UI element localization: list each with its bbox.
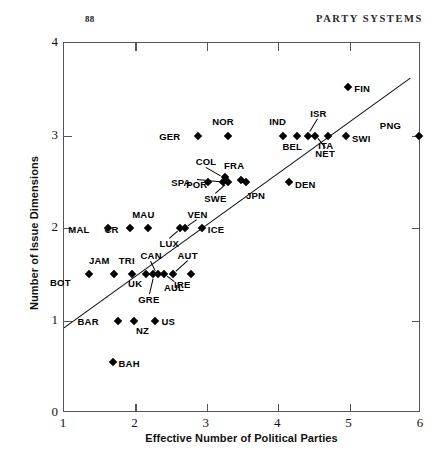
y-axis-tick-label: 3: [44, 127, 58, 143]
data-point-label: POR: [186, 179, 207, 190]
x-axis-tick: [135, 404, 136, 412]
data-point-label: ITA: [318, 140, 333, 151]
x-axis-title: Effective Number of Political Parties: [63, 432, 420, 444]
data-point-label: JAM: [89, 255, 110, 266]
data-point-label: GER: [159, 131, 180, 142]
data-point-label: BOT: [50, 277, 71, 288]
x-axis-tick: [278, 43, 279, 51]
data-point-label: UK: [128, 278, 142, 289]
x-axis-tick-label: 5: [345, 415, 352, 431]
x-axis-tick: [207, 43, 208, 51]
data-point-label: FRA: [224, 160, 244, 171]
y-axis-tick-label: 4: [44, 34, 58, 50]
data-point-label: SWE: [204, 193, 226, 204]
y-axis-tick-label: 1: [44, 312, 58, 328]
y-axis-tick-label: 0: [44, 404, 58, 420]
page-folio: 88: [85, 14, 94, 24]
data-point-label: BEL: [282, 141, 302, 152]
data-point-label: TRI: [119, 255, 135, 266]
x-axis-tick-label: 3: [203, 415, 210, 431]
x-axis-tick: [135, 43, 136, 51]
x-axis-tick-label: 6: [417, 415, 424, 431]
y-axis-tick: [412, 321, 420, 322]
data-point-label: US: [161, 316, 175, 327]
data-point-label: DEN: [295, 179, 316, 190]
y-axis-tick: [64, 321, 72, 322]
data-point-label: AUT: [178, 250, 198, 261]
figure-page: 88 PARTY SYSTEMS BOTJAMTRIUKGRECANAULAUT…: [0, 0, 437, 465]
x-axis-tick: [207, 404, 208, 412]
data-point-label: NOR: [212, 116, 234, 127]
running-head: PARTY SYSTEMS: [316, 13, 423, 24]
data-point-label: VEN: [187, 209, 207, 220]
x-axis-tick-label: 2: [131, 415, 138, 431]
x-axis-tick-label: 4: [274, 415, 281, 431]
y-axis-tick: [64, 136, 72, 137]
data-point-label: MAU: [132, 209, 154, 220]
data-point-label: BAH: [119, 358, 140, 369]
y-axis-tick-label: 2: [44, 219, 58, 235]
data-point-label: BAR: [78, 316, 99, 327]
data-point-label: ICE: [208, 224, 224, 235]
data-point-label: CR: [104, 224, 118, 235]
data-point-label: NZ: [136, 325, 149, 336]
data-point-label: COL: [196, 156, 217, 167]
data-point-label: SWI: [352, 133, 371, 144]
data-point-label: IND: [269, 116, 286, 127]
x-axis-tick-label: 1: [60, 415, 67, 431]
x-axis-tick: [350, 43, 351, 51]
data-point-label: ISR: [310, 108, 326, 119]
y-axis-title: Number of Issue Dimensions: [28, 103, 40, 363]
data-point-label: PNG: [380, 120, 401, 131]
scatter-plot-area: BOTJAMTRIUKGRECANAULAUTIREBARNZUSBAHMALC…: [63, 42, 420, 412]
data-point-label: CAN: [141, 250, 162, 261]
data-point-label: MAL: [68, 224, 89, 235]
data-point-label: FIN: [354, 83, 370, 94]
x-axis-tick: [278, 404, 279, 412]
data-point-label: JPN: [246, 190, 265, 201]
y-axis-tick: [412, 228, 420, 229]
data-point-label: IRE: [174, 279, 190, 290]
x-axis-tick: [350, 404, 351, 412]
data-point-label: GRE: [138, 294, 159, 305]
